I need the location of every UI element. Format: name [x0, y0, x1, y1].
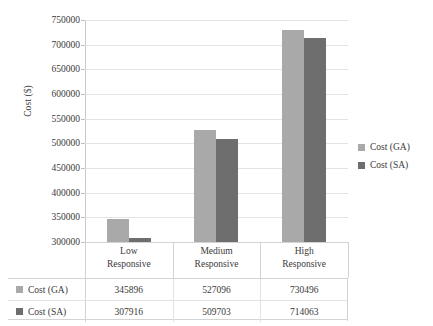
- table-row-header-label: Cost (GA): [28, 285, 68, 295]
- y-axis-tick-label: 600000: [18, 89, 80, 99]
- data-table: Cost (GA)345896527096730496Cost (SA)3079…: [8, 278, 348, 320]
- y-axis-tick-mark: [81, 193, 85, 194]
- table-cell: 527096: [173, 279, 261, 300]
- table-right-edge: [347, 279, 348, 321]
- y-axis-tick-label: 350000: [18, 212, 80, 222]
- category-label-row: LowResponsiveMediumResponsiveHighRespons…: [85, 242, 348, 278]
- y-axis-tick-label: 450000: [18, 163, 80, 173]
- table-cell: 345896: [85, 279, 173, 300]
- y-axis-tick-mark: [81, 20, 85, 21]
- table-row: Cost (GA)345896527096730496: [8, 279, 348, 300]
- y-axis-tick-mark: [81, 119, 85, 120]
- y-axis-tick-label: 400000: [18, 188, 80, 198]
- table-cell: 307916: [85, 301, 173, 322]
- bar-sa[interactable]: [304, 38, 326, 242]
- bar-ga[interactable]: [194, 130, 216, 242]
- table-row: Cost (SA)307916509703714063: [8, 300, 348, 322]
- legend: Cost (GA)Cost (SA): [358, 138, 433, 174]
- legend-item-label: Cost (GA): [370, 142, 410, 152]
- table-cell-separator: [173, 301, 174, 322]
- category-separator: [260, 242, 261, 278]
- bar-chart: Cost ($) 3000003500004000004500005000005…: [0, 0, 433, 326]
- category-label: MediumResponsive: [173, 242, 261, 278]
- y-axis-tick-label: 750000: [18, 15, 80, 25]
- y-axis-tick-mark: [81, 217, 85, 218]
- bar-group: [173, 20, 261, 242]
- table-row-header: Cost (GA): [8, 279, 85, 300]
- legend-item[interactable]: Cost (SA): [358, 156, 433, 174]
- category-row-edge: [348, 242, 349, 278]
- bar-ga[interactable]: [282, 30, 304, 242]
- y-axis-tick-mark: [81, 45, 85, 46]
- category-label-line: High: [260, 245, 348, 258]
- category-label: HighResponsive: [260, 242, 348, 278]
- table-cell-separator: [260, 279, 261, 300]
- table-cell: 509703: [173, 301, 261, 322]
- bar-sa[interactable]: [216, 139, 238, 242]
- bar-group: [85, 20, 173, 242]
- y-axis-tick-label: 650000: [18, 64, 80, 74]
- y-axis-tick-label: 500000: [18, 138, 80, 148]
- category-separator: [173, 242, 174, 278]
- table-cell: 730496: [260, 279, 348, 300]
- y-axis-tick-mark: [81, 94, 85, 95]
- category-label-line: Responsive: [85, 258, 173, 271]
- bar-group: [260, 20, 348, 242]
- y-axis-tick-label: 300000: [18, 237, 80, 247]
- table-cell-separator: [173, 279, 174, 300]
- series-swatch-icon: [16, 308, 23, 315]
- plot-area: [85, 20, 348, 242]
- category-label-line: Medium: [173, 245, 261, 258]
- legend-swatch-icon: [358, 144, 365, 151]
- y-axis-tick-mark: [81, 143, 85, 144]
- y-axis-tick-mark: [81, 168, 85, 169]
- legend-swatch-icon: [358, 162, 365, 169]
- table-cell-separator: [260, 301, 261, 322]
- y-axis-tick-label: 700000: [18, 40, 80, 50]
- y-axis-tick-label: 550000: [18, 114, 80, 124]
- series-swatch-icon: [16, 286, 23, 293]
- bar-ga[interactable]: [107, 219, 129, 242]
- table-cell: 714063: [260, 301, 348, 322]
- category-label: LowResponsive: [85, 242, 173, 278]
- legend-item-label: Cost (SA): [370, 160, 408, 170]
- category-row-edge: [85, 242, 86, 278]
- table-row-header-label: Cost (SA): [28, 307, 66, 317]
- category-label-line: Responsive: [173, 258, 261, 271]
- category-label-line: Low: [85, 245, 173, 258]
- legend-item[interactable]: Cost (GA): [358, 138, 433, 156]
- category-label-line: Responsive: [260, 258, 348, 271]
- table-row-header: Cost (SA): [8, 301, 85, 322]
- y-axis-tick-mark: [81, 69, 85, 70]
